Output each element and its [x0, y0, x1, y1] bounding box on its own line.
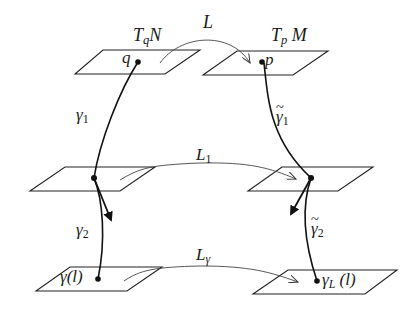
label-gamma-l: γ(l) [60, 268, 83, 285]
label-gamma2: γ2 [76, 221, 89, 241]
label-gammaL-l: γL (l) [322, 271, 356, 291]
point-gamma-l [95, 276, 101, 282]
curve-gamma1 [94, 62, 138, 178]
label-p: p [265, 51, 274, 68]
label-tqn: TqN [133, 26, 161, 47]
point-mid-right [308, 175, 314, 181]
point-p [259, 59, 265, 65]
label-map-Lgamma: Lγ [196, 246, 210, 266]
label-gamma1: γ1 [76, 106, 89, 126]
label-gamma1-tilde: γ1 [276, 108, 289, 128]
label-map-L1: L1 [196, 146, 211, 166]
point-q [135, 59, 141, 65]
parallel-transport-diagram: TqN Tp M q p γ(l) γL (l) L L1 Lγ γ1 γ2 γ… [0, 0, 415, 313]
label-gamma2-tilde: γ2 [311, 220, 324, 240]
map-arrow-Lgamma [124, 266, 298, 282]
point-mid-left [91, 175, 97, 181]
curve-gamma2 [94, 178, 103, 279]
label-q: q [122, 49, 131, 66]
label-map-L: L [203, 13, 213, 31]
point-gammaL-l [314, 278, 320, 284]
tangent-vector-right [291, 178, 311, 214]
label-tpm: Tp M [271, 26, 307, 47]
